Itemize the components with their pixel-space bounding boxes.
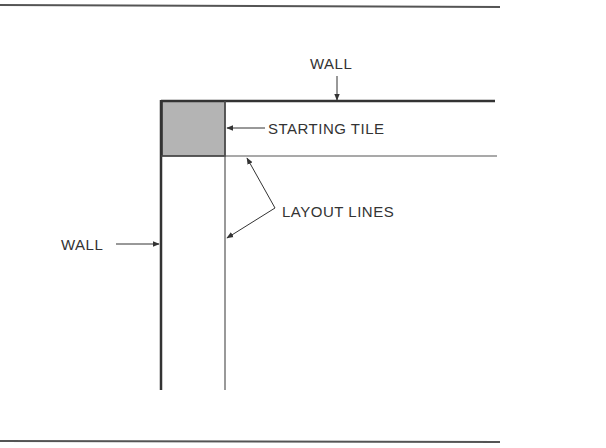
wall-top-label: WALL — [310, 55, 352, 72]
bottom-rule — [0, 441, 500, 442]
starting-tile — [162, 101, 225, 156]
wall-left-label: WALL — [61, 236, 103, 253]
tile-layout-diagram: WALL STARTING TILE LAYOUT LINES WALL — [0, 0, 606, 448]
layout-lines-arrow-horizontal — [247, 158, 275, 208]
layout-lines-label: LAYOUT LINES — [282, 203, 394, 220]
layout-lines-arrow-vertical — [227, 208, 275, 238]
top-rule — [0, 5, 500, 7]
starting-tile-label: STARTING TILE — [268, 120, 385, 137]
